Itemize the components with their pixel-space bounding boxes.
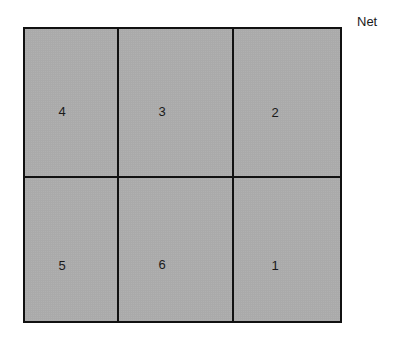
grid-divider-vertical-1 — [117, 29, 119, 321]
face-label-2: 2 — [271, 105, 278, 120]
face-label-6: 6 — [158, 257, 165, 272]
grid-divider-vertical-2 — [232, 29, 234, 321]
face-label-1: 1 — [271, 258, 278, 273]
face-label-4: 4 — [58, 104, 65, 119]
grid-divider-horizontal — [25, 176, 340, 178]
net-title: Net — [357, 14, 377, 29]
face-label-5: 5 — [58, 258, 65, 273]
face-label-3: 3 — [158, 104, 165, 119]
net-grid: 4 3 2 5 6 1 — [23, 27, 342, 323]
